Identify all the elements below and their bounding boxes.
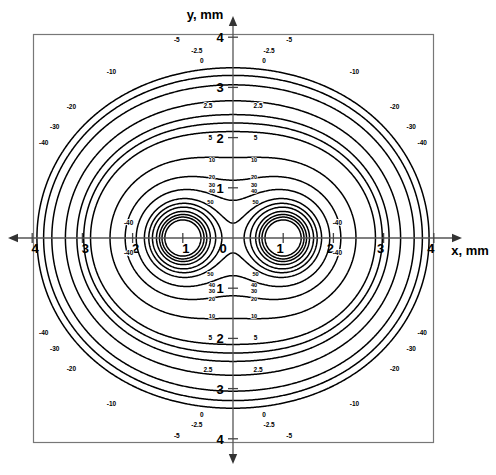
contour-label-20: 20 [209,174,215,180]
x-axis-tick-label: 1 [277,241,284,256]
contour-label-50: 50 [252,199,258,205]
contour-label-2p5: 2.5 [203,102,212,109]
contour-label-neg5: -5 [286,432,292,439]
contour-label-2p5: 2.5 [254,102,263,109]
y-axis-arrow-up [229,16,237,26]
contour-label-0: 0 [262,57,266,64]
y-axis-arrow-down [229,454,237,464]
x-axis-tick-label: 1 [182,241,189,256]
contour-label-5: 5 [254,134,258,141]
contour-label-neg20: -20 [390,365,400,372]
contour-label-2p5: 2.5 [254,366,263,373]
contour-label-5: 5 [209,334,213,341]
contour-label-2p5: 2.5 [203,366,212,373]
contour-label-5: 5 [254,334,258,341]
y-axis-tick-label: 2 [216,131,223,146]
contour-label-30: 30 [209,182,215,188]
contour-label-neg40: -40 [124,219,134,226]
x-axis-tick-label: 3 [377,241,384,256]
y-axis-tick-label: 1 [216,181,223,196]
x-axis-tick-label: 4 [32,241,40,256]
contour-label-neg20: -20 [67,365,77,372]
x-axis-title: x, mm [451,243,489,258]
contour-label-neg40: -40 [124,249,134,256]
contour-label-neg10: -10 [350,68,360,75]
contour-label-5: 5 [209,134,213,141]
contour-label-10: 10 [209,313,215,319]
contour-label-neg10: -10 [107,400,117,407]
contour-label-neg10: -10 [350,400,360,407]
y-axis-title: y, mm [187,7,224,22]
contour-label-40: 40 [251,188,257,194]
contour-label-neg5: -5 [174,36,180,43]
contour-label-neg30: -30 [50,345,60,352]
x-axis-arrow-right [452,234,462,242]
contour-label-40: 40 [209,282,215,288]
contour-label-50: 50 [207,199,213,205]
contour-label-10: 10 [251,313,257,319]
contour-label-neg20: -20 [67,103,77,110]
x-axis-arrow-left [8,234,18,242]
contour-label-neg30: -30 [407,345,417,352]
contour-label-0: 0 [200,411,204,418]
y-axis-tick-label: 3 [216,80,223,95]
contour-label-neg40: -40 [418,329,428,336]
contour-label-30: 30 [251,182,257,188]
contour-label-neg5: -5 [286,36,292,43]
contour-label-50: 50 [207,271,213,277]
contour-label-neg2p5: -2.5 [264,47,276,54]
contour-label-0: 0 [262,411,266,418]
y-axis-tick-label: 3 [216,382,223,397]
contour-label-neg30: -30 [50,123,60,130]
contour-label-neg40: -40 [333,219,343,226]
contour-label-neg40: -40 [39,139,49,146]
contour-plot-figure: 43211234043211234x, mmy, mm5050505040404… [0,0,496,475]
contour-label-10: 10 [251,157,257,163]
x-axis-tick-label: 3 [82,241,89,256]
contour-label-neg40: -40 [333,249,343,256]
contour-label-20: 20 [251,296,257,302]
contour-label-neg30: -30 [407,123,417,130]
contour-label-neg2p5: -2.5 [191,47,203,54]
contour-label-40: 40 [251,282,257,288]
y-axis-tick-label: 4 [216,432,224,447]
y-axis-tick-label: 2 [216,331,223,346]
contour-plot-svg: 43211234043211234x, mmy, mm5050505040404… [0,0,496,475]
x-axis-tick-label: 4 [427,241,435,256]
contour-label-40: 40 [209,188,215,194]
y-axis-tick-label: 4 [216,30,224,45]
contour-label-20: 20 [209,296,215,302]
contour-label-20: 20 [251,174,257,180]
y-axis-tick-label: 1 [216,281,223,296]
contour-label-30: 30 [251,288,257,294]
contour-label-neg5: -5 [174,432,180,439]
contour-label-30: 30 [209,288,215,294]
contour-label-neg10: -10 [107,68,117,75]
contour-label-neg2p5: -2.5 [191,421,203,428]
origin-label: 0 [219,241,226,256]
contour-label-50: 50 [252,271,258,277]
contour-label-neg40: -40 [418,139,428,146]
contour-label-neg2p5: -2.5 [264,421,276,428]
contour-label-neg40: -40 [39,329,49,336]
contour-label-neg20: -20 [390,103,400,110]
contour-label-10: 10 [209,157,215,163]
contour-label-0: 0 [200,57,204,64]
